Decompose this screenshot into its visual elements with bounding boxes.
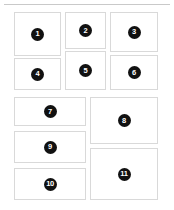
- panel-number-badge: 1: [31, 28, 44, 41]
- panel-number-badge: 7: [44, 105, 57, 118]
- panel-number-badge: 6: [128, 66, 141, 79]
- panel-8[interactable]: 8: [90, 97, 158, 144]
- panel-1[interactable]: 1: [14, 12, 61, 56]
- page-canvas: 1234567891011: [0, 0, 174, 210]
- panel-10[interactable]: 10: [14, 168, 86, 200]
- panel-5[interactable]: 5: [65, 51, 106, 90]
- panel-4[interactable]: 4: [14, 58, 61, 90]
- panel-6[interactable]: 6: [110, 55, 158, 90]
- panel-number-badge: 2: [79, 24, 92, 37]
- panel-number-badge: 9: [44, 141, 57, 154]
- panel-number-badge: 8: [118, 114, 131, 127]
- top-divider: [4, 4, 170, 5]
- panel-3[interactable]: 3: [110, 12, 158, 52]
- panel-number-badge: 4: [31, 68, 44, 81]
- panel-2[interactable]: 2: [65, 12, 106, 49]
- panel-9[interactable]: 9: [14, 131, 86, 163]
- panel-number-badge: 11: [118, 168, 131, 181]
- panel-11[interactable]: 11: [90, 148, 158, 200]
- panel-number-badge: 3: [128, 26, 141, 39]
- panel-number-badge: 10: [44, 178, 57, 191]
- panel-7[interactable]: 7: [14, 97, 86, 126]
- panel-number-badge: 5: [79, 64, 92, 77]
